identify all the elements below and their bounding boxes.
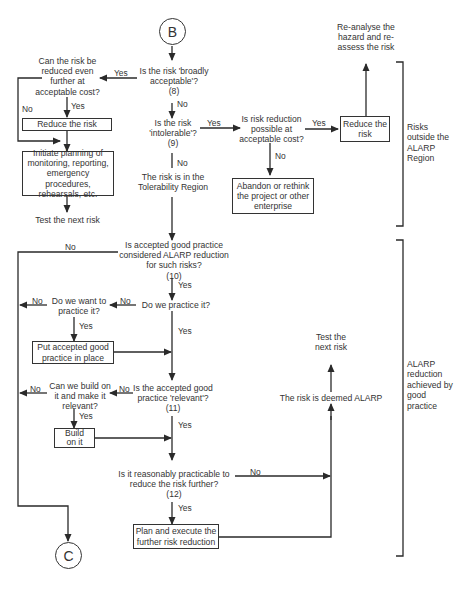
- process-text: Abandon or rethink the project or other …: [233, 181, 313, 212]
- process-text: Build on it: [63, 429, 87, 447]
- terminal-test-next-risk-right: Test the next risk: [313, 332, 349, 352]
- process-text: Put accepted good practice in place: [33, 342, 113, 362]
- edge-label-yes: Yes: [79, 411, 93, 421]
- edge-label-no: No: [275, 151, 286, 161]
- terminal-abandon: Abandon or rethink the project or other …: [232, 178, 314, 214]
- decision-number: (8): [169, 86, 180, 96]
- process-put-good-practice: Put accepted good practice in place: [32, 341, 114, 364]
- decision-reduce-further: Can the risk be reduced even further at …: [30, 56, 105, 97]
- edge-label-no: No: [177, 99, 188, 109]
- decision-number: (11): [166, 403, 181, 413]
- decision-text: Is the accepted good practice 'relevant'…: [133, 383, 213, 403]
- edge-label-no: No: [250, 467, 261, 477]
- connector-c: C: [55, 542, 82, 569]
- decision-text: Is it reasonably practicable to reduce t…: [118, 469, 229, 489]
- process-text: Plan and execute the further risk reduct…: [134, 526, 218, 546]
- decision-number: (9): [168, 138, 179, 148]
- decision-build-on-it: Can we build on it and make it relevant?: [48, 381, 112, 412]
- region-label-outside-alarp: Risks outside the ALARP Region: [407, 122, 453, 164]
- decision-practice-relevant: Is the accepted good practice 'relevant'…: [132, 383, 214, 414]
- edge-label-no: No: [120, 296, 131, 306]
- edge-label-yes: Yes: [71, 101, 85, 111]
- process-plan-execute: Plan and execute the further risk reduct…: [133, 524, 219, 549]
- decision-text: Is accepted good practice considered ALA…: [119, 240, 229, 270]
- edge-label-yes: Yes: [178, 280, 192, 290]
- decision-broadly-acceptable: Is the risk 'broadly acceptable'? (8): [136, 66, 212, 97]
- process-initiate-planning: Initiate planning of monitoring, reporti…: [22, 151, 114, 196]
- alarp-flowchart: B C Is the risk 'broadly acceptable'? (8…: [0, 0, 455, 589]
- edge-label-yes: Yes: [178, 420, 192, 430]
- decision-text: Is the risk 'broadly acceptable'?: [140, 66, 209, 86]
- edge-label-yes: Yes: [178, 503, 192, 513]
- edge-label-no: No: [177, 158, 188, 168]
- state-tolerability-region: The risk is in the Tolerability Region: [132, 172, 214, 192]
- connector-b: B: [159, 18, 186, 45]
- state-deemed-alarp: The risk is deemed ALARP: [276, 393, 386, 403]
- decision-want-to-practice: Do we want to practice it?: [48, 296, 110, 316]
- terminal-test-next-risk-left: Test the next risk: [30, 215, 105, 225]
- edge-label-yes: Yes: [79, 321, 93, 331]
- terminal-reanalyse: Re-analyse the hazard and re-assess the …: [335, 22, 397, 53]
- region-label-alarp-good-practice: ALARP reduction achieved by good practic…: [407, 359, 455, 411]
- process-reduce-risk-left: Reduce the risk: [22, 118, 112, 131]
- edge-label-no: No: [30, 384, 41, 394]
- edge-label-yes: Yes: [312, 118, 326, 128]
- edge-label-yes: Yes: [114, 68, 128, 78]
- decision-reduction-possible: Is risk reduction possible at acceptable…: [234, 114, 309, 145]
- edge-label-yes: Yes: [207, 118, 221, 128]
- process-text: Initiate planning of monitoring, reporti…: [25, 148, 111, 199]
- process-text: Reduce the risk: [341, 119, 389, 139]
- decision-text: Is the risk 'intolerable'?: [149, 118, 197, 138]
- decision-reasonably-practicable: Is it reasonably practicable to reduce t…: [118, 469, 230, 500]
- decision-good-practice-alarp: Is accepted good practice considered ALA…: [118, 240, 230, 281]
- decision-number: (12): [166, 489, 181, 499]
- process-text: Reduce the risk: [37, 119, 97, 129]
- edge-label-no: No: [22, 104, 33, 114]
- edge-label-no: No: [32, 296, 43, 306]
- edge-label-no: No: [119, 384, 130, 394]
- connector-b-label: B: [168, 24, 177, 40]
- decision-intolerable: Is the risk 'intolerable'? (9): [143, 118, 203, 149]
- edge-label-no: No: [65, 242, 76, 252]
- process-reduce-risk-right: Reduce the risk: [340, 116, 390, 142]
- edge-label-yes: Yes: [178, 326, 192, 336]
- decision-do-we-practice: Do we practice it?: [136, 300, 216, 310]
- process-build-on-it: Build on it: [54, 428, 95, 448]
- connector-c-label: C: [63, 548, 73, 564]
